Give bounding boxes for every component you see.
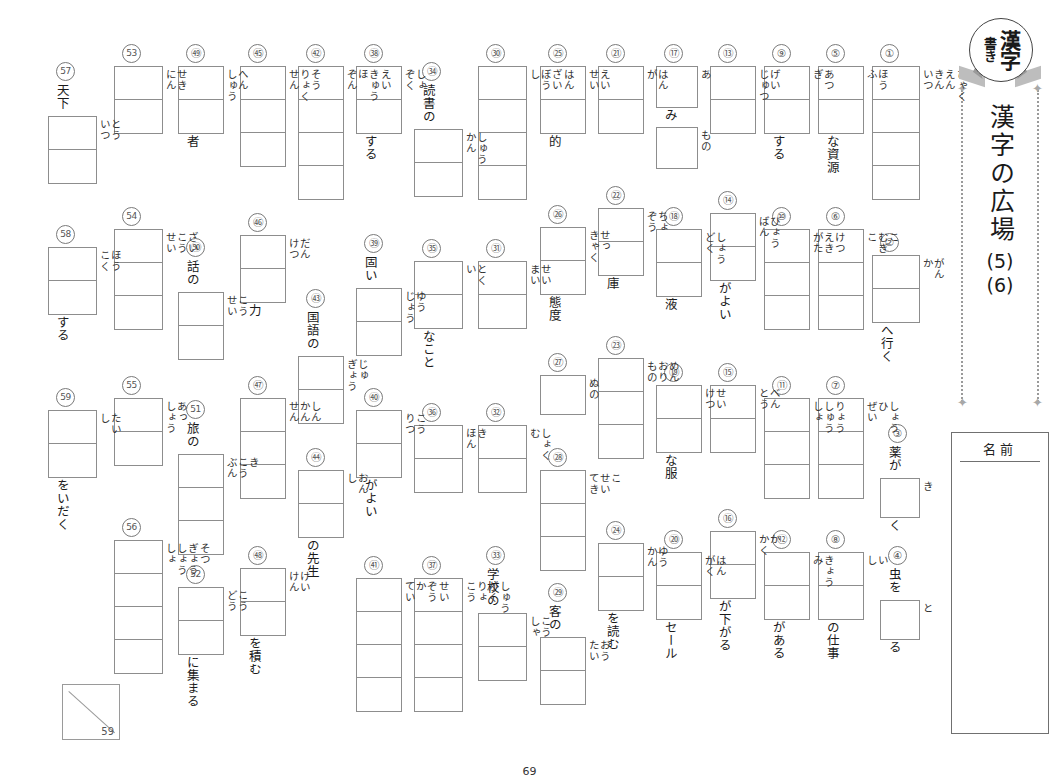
reading-hint: けつ: [834, 232, 845, 265]
answer-box[interactable]: [115, 296, 162, 329]
answer-box[interactable]: [115, 230, 162, 263]
answer-box-group[interactable]: [114, 540, 163, 674]
item-number: ㉗: [548, 353, 567, 372]
answer-box-group[interactable]: [240, 235, 286, 303]
answer-box[interactable]: [873, 133, 919, 166]
answer-box[interactable]: [299, 166, 343, 199]
reading-hints: べんとう: [757, 388, 780, 450]
answer-box[interactable]: [541, 504, 585, 537]
reading-hint: しゅう: [475, 132, 486, 165]
answer-box[interactable]: [415, 163, 462, 196]
answer-box[interactable]: [115, 263, 162, 296]
answer-box-group[interactable]: [114, 229, 163, 330]
answer-box[interactable]: [179, 488, 223, 521]
answer-box-group[interactable]: [656, 127, 698, 169]
answer-box[interactable]: [415, 130, 462, 163]
answer-box-group[interactable]: [48, 410, 97, 478]
answer-box-group[interactable]: [48, 247, 97, 315]
answer-box[interactable]: [179, 326, 223, 359]
answer-box[interactable]: [49, 117, 96, 150]
answer-box[interactable]: [711, 100, 755, 133]
answer-box[interactable]: [599, 577, 643, 610]
reading-hint: い: [464, 264, 475, 297]
answer-box[interactable]: [599, 425, 643, 458]
answer-box[interactable]: [241, 399, 285, 432]
answer-box[interactable]: [49, 248, 96, 281]
answer-box[interactable]: [873, 166, 919, 199]
reading-hint: ふ: [865, 69, 876, 102]
reading-hint: えい: [598, 69, 609, 102]
answer-box[interactable]: [357, 645, 401, 678]
reading-hints: こせいてき: [587, 473, 621, 568]
item-number: ⑨: [772, 44, 791, 63]
answer-box[interactable]: [299, 357, 343, 390]
reading-hint: ほん: [464, 428, 475, 461]
answer-box[interactable]: [49, 444, 96, 477]
answer-box[interactable]: [115, 67, 162, 100]
answer-box[interactable]: [357, 322, 401, 355]
answer-box[interactable]: [541, 537, 585, 570]
item-suffix-text: 者: [184, 135, 198, 152]
reading-hint: じゅつ: [757, 69, 768, 102]
reading-hint: けん: [287, 571, 298, 604]
answer-box[interactable]: [115, 640, 162, 673]
reading-hint: ぎ: [811, 69, 822, 102]
reading-hint: と: [921, 603, 932, 641]
reading-hints: とういつ: [98, 119, 121, 181]
reading-hint: こう: [236, 457, 247, 490]
answer-box[interactable]: [115, 432, 162, 465]
reading-hint: しょう: [714, 232, 725, 265]
answer-box[interactable]: [657, 128, 697, 168]
reading-hints: しゅうかん: [464, 132, 487, 194]
answer-box[interactable]: [115, 399, 162, 432]
name-field[interactable]: 名前: [951, 432, 1049, 734]
answer-box-group[interactable]: [356, 288, 402, 356]
item-number: ㊲: [422, 556, 441, 575]
answer-box[interactable]: [479, 100, 526, 133]
answer-box[interactable]: [357, 678, 401, 711]
answer-box[interactable]: [115, 100, 162, 133]
reading-hint: りょう: [834, 401, 845, 434]
answer-box[interactable]: [115, 607, 162, 640]
reading-hint: はん: [656, 69, 667, 102]
answer-box[interactable]: [357, 289, 401, 322]
answer-box[interactable]: [241, 236, 285, 269]
answer-box[interactable]: [49, 411, 96, 444]
reading-hint: げい: [768, 69, 779, 102]
answer-box[interactable]: [115, 574, 162, 607]
answer-box-group[interactable]: [710, 66, 756, 134]
answer-box-group[interactable]: [414, 129, 463, 197]
answer-box[interactable]: [765, 465, 809, 498]
reading-hints: あ: [699, 69, 710, 105]
answer-box[interactable]: [541, 228, 585, 261]
reading-hints: はんざいぼうし: [528, 69, 573, 197]
answer-box[interactable]: [49, 281, 96, 314]
answer-box-group[interactable]: [598, 358, 644, 459]
answer-box[interactable]: [765, 296, 809, 329]
reading-hints: きこうぶん: [225, 457, 259, 552]
reading-hint: えき: [822, 232, 833, 265]
answer-box[interactable]: [479, 67, 526, 100]
reading-hint: おう: [598, 640, 609, 673]
reading-hints: きょうみ: [811, 555, 834, 617]
item-number: 57: [56, 62, 75, 81]
badge-kanji-label: 漢字: [998, 30, 1019, 70]
answer-box[interactable]: [599, 359, 643, 392]
answer-box[interactable]: [357, 612, 401, 645]
answer-box[interactable]: [541, 376, 585, 414]
answer-box[interactable]: [49, 150, 96, 183]
item-number: 55: [122, 376, 141, 395]
answer-box[interactable]: [299, 504, 343, 537]
answer-box[interactable]: [599, 392, 643, 425]
answer-box-group[interactable]: [356, 578, 402, 712]
answer-box-group[interactable]: [178, 454, 224, 555]
answer-box[interactable]: [241, 133, 285, 166]
answer-box[interactable]: [357, 579, 401, 612]
answer-box-group[interactable]: [48, 116, 97, 184]
score-box[interactable]: 59: [62, 684, 120, 740]
item-prefix-text: 固い: [362, 256, 376, 282]
answer-box[interactable]: [115, 541, 162, 574]
answer-box[interactable]: [711, 67, 755, 100]
reading-hint: か: [768, 534, 779, 567]
answer-box-group[interactable]: [540, 375, 586, 415]
